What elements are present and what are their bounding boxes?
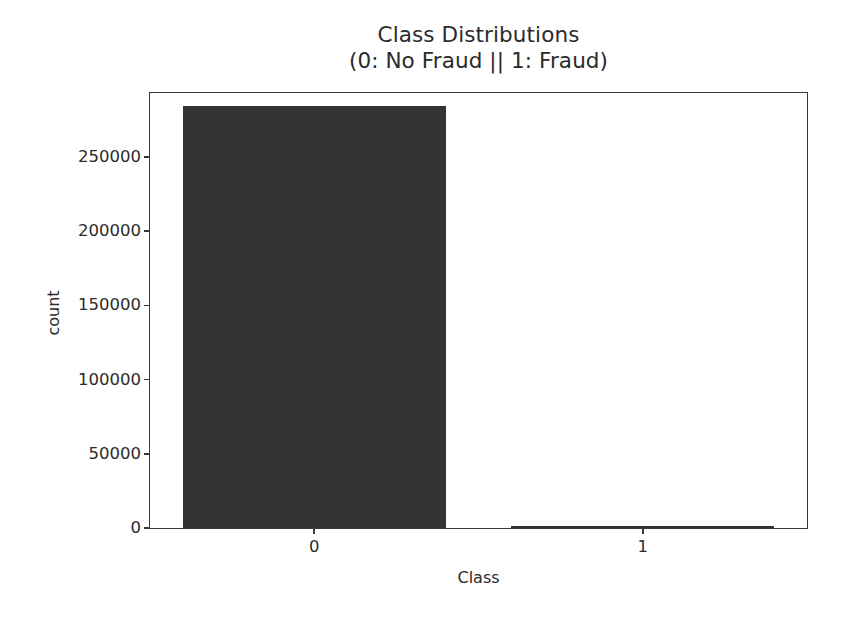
x-tick-mark	[313, 528, 315, 534]
y-axis-label: count	[44, 290, 63, 335]
x-tick-label: 1	[638, 537, 649, 556]
y-tick-label: 50000	[89, 444, 142, 463]
y-tick-label: 150000	[78, 295, 141, 314]
x-tick-label: 0	[309, 537, 320, 556]
y-tick-label: 200000	[78, 221, 141, 240]
chart-subtitle: (0: No Fraud || 1: Fraud)	[149, 48, 808, 74]
chart-figure: Class Distributions (0: No Fraud || 1: F…	[0, 0, 847, 626]
y-tick-label: 100000	[78, 370, 141, 389]
chart-title-block: Class Distributions (0: No Fraud || 1: F…	[149, 22, 808, 74]
x-tick-mark	[642, 528, 644, 534]
chart-title: Class Distributions	[149, 22, 808, 48]
bar-0	[183, 106, 446, 528]
x-axis-label: Class	[149, 568, 808, 587]
y-tick-label: 0	[131, 518, 142, 537]
plot-axes: 050000100000150000200000250000 01	[149, 92, 808, 529]
plot-area	[150, 93, 807, 528]
bar-1	[511, 526, 774, 528]
y-tick-label: 250000	[78, 147, 141, 166]
